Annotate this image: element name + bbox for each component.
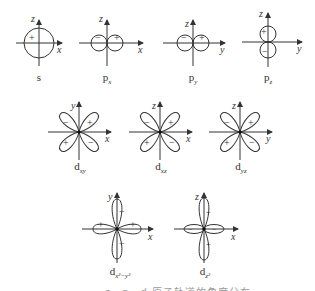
svg-text:−: − bbox=[119, 238, 125, 249]
svg-text:z: z bbox=[231, 100, 236, 111]
dxy-orbital: y x − + + − bbox=[48, 100, 111, 160]
svg-text:−: − bbox=[88, 137, 94, 148]
svg-text:−: − bbox=[262, 46, 268, 57]
label-s: s bbox=[37, 71, 41, 83]
label-dz2: dz² bbox=[200, 265, 210, 280]
svg-text:+: + bbox=[98, 219, 104, 230]
svg-text:y: y bbox=[265, 133, 271, 144]
svg-text:y: y bbox=[70, 100, 76, 111]
dx2-y2-orbital: y x − + + − bbox=[82, 191, 153, 263]
svg-text:−: − bbox=[224, 117, 230, 128]
label-dxy: dxy bbox=[74, 160, 86, 175]
svg-text:y: y bbox=[296, 43, 302, 54]
dxz-orbital: z x − + + − bbox=[129, 100, 192, 160]
svg-text:+: + bbox=[224, 137, 230, 148]
axis-label-x: x bbox=[56, 44, 62, 55]
figure-caption: s、p、d 原子轨道的角度分布图 bbox=[105, 284, 255, 291]
svg-text:+: + bbox=[261, 26, 267, 37]
svg-text:+: + bbox=[199, 32, 205, 43]
svg-text:z: z bbox=[98, 13, 103, 24]
dyz-orbital: z y − + + − bbox=[209, 100, 272, 160]
label-dxz: dxz bbox=[155, 160, 166, 175]
s-orbital: z x + bbox=[16, 13, 62, 66]
svg-text:−: − bbox=[95, 32, 101, 43]
svg-text:y: y bbox=[107, 191, 113, 202]
svg-text:+: + bbox=[63, 137, 69, 148]
svg-text:+: + bbox=[168, 117, 174, 128]
svg-text:+: + bbox=[144, 137, 150, 148]
sign-plus: + bbox=[29, 32, 35, 43]
orbital-diagram: z x + z x − + z y − + bbox=[0, 0, 315, 291]
svg-text:−: − bbox=[119, 206, 125, 217]
label-px: px bbox=[103, 71, 112, 86]
svg-text:−: − bbox=[169, 137, 175, 148]
label-pz: pz bbox=[264, 71, 272, 86]
svg-text:+: + bbox=[206, 208, 211, 217]
label-py: py bbox=[189, 71, 198, 86]
py-orbital: z y − + bbox=[163, 18, 225, 66]
svg-text:−: − bbox=[212, 225, 217, 234]
svg-text:y: y bbox=[219, 44, 225, 55]
svg-text:z: z bbox=[151, 100, 156, 111]
svg-text:−: − bbox=[181, 32, 187, 43]
svg-text:x: x bbox=[230, 231, 236, 242]
svg-text:z: z bbox=[184, 18, 189, 29]
svg-text:x: x bbox=[185, 133, 191, 144]
svg-text:−: − bbox=[63, 117, 69, 128]
svg-text:−: − bbox=[249, 137, 255, 148]
svg-text:z: z bbox=[258, 8, 263, 19]
dz2-orbital: z x + − − + bbox=[174, 191, 238, 263]
svg-text:+: + bbox=[248, 117, 254, 128]
svg-text:x: x bbox=[137, 44, 143, 55]
pz-orbital: z y + − bbox=[242, 8, 302, 67]
svg-text:−: − bbox=[144, 117, 150, 128]
axis-label-z: z bbox=[30, 13, 35, 24]
svg-text:x: x bbox=[104, 133, 110, 144]
svg-text:+: + bbox=[206, 240, 211, 249]
label-dx2-y2: dx²−y² bbox=[110, 265, 131, 280]
svg-text:+: + bbox=[130, 219, 136, 230]
label-dyz: dyz bbox=[235, 160, 246, 175]
svg-text:+: + bbox=[87, 117, 93, 128]
svg-text:x: x bbox=[147, 231, 153, 242]
svg-text:z: z bbox=[194, 191, 199, 202]
svg-text:+: + bbox=[114, 32, 120, 43]
svg-text:−: − bbox=[188, 225, 193, 234]
px-orbital: z x − + bbox=[79, 13, 143, 66]
